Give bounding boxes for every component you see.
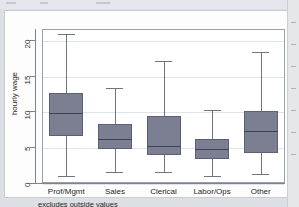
upper-whisker-line (212, 110, 213, 139)
upper-whisker-cap (106, 88, 123, 89)
interquartile-box (49, 93, 83, 136)
x-axis-tick-label: Labor/Ops (193, 187, 230, 196)
edge-tick (291, 132, 296, 133)
y-axis-title: hourly wage (10, 59, 19, 129)
lower-whisker-cap (58, 176, 75, 177)
scan-speck (40, 2, 48, 4)
lower-whisker-cap (106, 172, 123, 173)
gridline (43, 41, 284, 42)
lower-whisker-cap (204, 176, 221, 177)
y-axis-tick-label: 0 (23, 183, 32, 205)
lower-whisker-line (66, 136, 67, 175)
scan-speck (96, 2, 110, 4)
y-axis-tick-label: 20 (23, 39, 32, 61)
upper-whisker-cap (155, 61, 172, 62)
edge-tick (291, 110, 296, 111)
upper-whisker-cap (204, 110, 221, 111)
chart-caption: excludes outside values (38, 200, 118, 207)
edge-tick (291, 154, 296, 155)
scan-speck (6, 2, 16, 4)
upper-whisker-cap (58, 34, 75, 35)
x-axis-line (35, 183, 285, 184)
median-line (244, 131, 278, 132)
edge-tick (291, 22, 296, 23)
gridline (43, 184, 284, 185)
upper-whisker-line (66, 34, 67, 93)
upper-whisker-line (115, 88, 116, 125)
x-axis-tick-label: Clerical (150, 187, 177, 196)
y-axis-line (35, 29, 36, 183)
lower-whisker-line (115, 149, 116, 171)
lower-whisker-line (212, 159, 213, 176)
lower-whisker-cap (252, 174, 269, 175)
median-line (98, 139, 132, 140)
y-axis-tick-label: 15 (23, 75, 32, 97)
interquartile-box (98, 124, 132, 149)
x-axis-tick-label: Prof/Mgmt (48, 187, 85, 196)
edge-tick (291, 66, 296, 67)
median-line (147, 146, 181, 147)
lower-whisker-line (261, 153, 262, 174)
median-line (195, 149, 229, 150)
figure-container: hourly wage 05101520 Prof/MgmtSalesCleri… (0, 0, 299, 207)
edge-tick (291, 88, 296, 89)
y-axis-tick-label: 5 (23, 147, 32, 169)
lower-whisker-line (164, 155, 165, 172)
lower-whisker-cap (155, 172, 172, 173)
y-axis-tick-label: 10 (23, 111, 32, 133)
upper-whisker-line (164, 61, 165, 115)
upper-whisker-cap (252, 52, 269, 53)
interquartile-box (147, 116, 181, 155)
adjacent-page-edge (287, 0, 299, 207)
x-axis-tick-label: Sales (105, 187, 125, 196)
edge-tick (291, 44, 296, 45)
median-line (49, 113, 83, 114)
upper-whisker-line (261, 52, 262, 111)
x-axis-tick-label: Other (251, 187, 271, 196)
graph-card: hourly wage 05101520 Prof/MgmtSalesCleri… (5, 11, 288, 197)
